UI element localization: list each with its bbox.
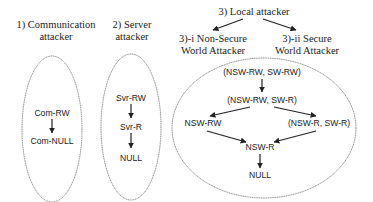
arrow-icon bbox=[263, 19, 296, 30]
node-svr-rw: Svr-RW bbox=[116, 93, 147, 103]
arrow-icon bbox=[274, 107, 316, 116]
node-nsw-r: NSW-R bbox=[246, 142, 275, 152]
node-svr-null: NULL bbox=[120, 153, 142, 163]
secure-title-line1: 3)-ii Secure bbox=[282, 33, 332, 45]
arrow-icon bbox=[207, 131, 246, 142]
arrow-icon bbox=[274, 131, 316, 142]
nonsecure-title-line2: World Attacker bbox=[181, 45, 246, 56]
server-attacker-group: 2) Server attacker Svr-RW Svr-R NULL bbox=[101, 19, 161, 200]
arrow-icon bbox=[213, 19, 243, 30]
attacker-model-diagram: 1) Communication attacker Com-RW Com-NUL… bbox=[0, 0, 373, 202]
local-title: 3) Local attacker bbox=[218, 6, 290, 18]
node-nsw-rw-sw-rw: (NSW-RW, SW-RW) bbox=[223, 67, 301, 77]
node-nsw-rw-sw-r: (NSW-RW, SW-R) bbox=[227, 95, 297, 105]
node-nsw-rw: NSW-RW bbox=[185, 118, 223, 128]
node-svr-r: Svr-R bbox=[120, 122, 142, 132]
node-com-rw: Com-RW bbox=[34, 108, 70, 118]
server-title-line2: attacker bbox=[115, 31, 149, 42]
secure-title-line2: World Attacker bbox=[275, 45, 340, 56]
node-com-null: Com-NULL bbox=[31, 136, 74, 146]
arrow-icon bbox=[210, 107, 250, 116]
communication-title-line1: 1) Communication bbox=[16, 19, 96, 31]
server-title-line1: 2) Server bbox=[113, 19, 152, 31]
communication-title-line2: attacker bbox=[39, 31, 73, 42]
node-local-null: NULL bbox=[249, 170, 271, 180]
nonsecure-title-line1: 3)-i Non-Secure bbox=[179, 33, 247, 45]
local-attacker-group: 3) Local attacker 3)-i Non-Secure World … bbox=[172, 6, 356, 198]
node-nsw-r-sw-r: (NSW-R, SW-R) bbox=[288, 118, 350, 128]
communication-attacker-group: 1) Communication attacker Com-RW Com-NUL… bbox=[16, 19, 96, 202]
